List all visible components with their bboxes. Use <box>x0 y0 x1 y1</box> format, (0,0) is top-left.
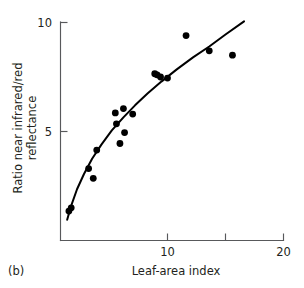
y-tick-label-5: 5 <box>45 125 52 139</box>
data-point <box>93 147 100 154</box>
fit-curve <box>67 21 244 219</box>
data-points-group <box>66 32 236 214</box>
y-axis-title-line1: Ratio near infrared/red <box>11 63 25 194</box>
data-point <box>164 75 171 82</box>
data-point <box>117 140 124 147</box>
y-axis-tick-labels: 10 5 <box>37 16 52 139</box>
data-point <box>229 52 236 59</box>
figure-panel: 10 5 10 20 Leaf-area index Ratio near in… <box>0 0 304 288</box>
x-tick-label-10: 10 <box>160 245 175 259</box>
y-axis-ticks <box>61 23 68 132</box>
data-point <box>121 129 128 136</box>
x-tick-label-20: 20 <box>276 245 291 259</box>
y-axis-title: Ratio near infrared/red reflectance <box>11 63 39 194</box>
data-point <box>206 47 213 54</box>
x-axis-title: Leaf-area index <box>132 264 221 278</box>
data-point <box>90 175 97 182</box>
data-point <box>85 165 92 172</box>
fit-curve-group <box>67 21 244 219</box>
data-point <box>183 32 190 39</box>
scatter-plot: 10 5 10 20 Leaf-area index Ratio near in… <box>0 0 304 288</box>
data-point <box>113 120 120 127</box>
panel-label: (b) <box>8 264 24 278</box>
y-tick-label-10: 10 <box>37 16 52 30</box>
data-point <box>120 105 127 112</box>
data-point <box>157 74 164 81</box>
x-axis-ticks <box>168 234 284 241</box>
data-point <box>129 111 136 118</box>
axes-group <box>61 22 284 241</box>
y-axis-title-line2: reflectance <box>25 96 39 160</box>
data-point <box>112 110 119 117</box>
data-point <box>68 204 75 211</box>
x-axis-tick-labels: 10 20 <box>160 245 291 259</box>
